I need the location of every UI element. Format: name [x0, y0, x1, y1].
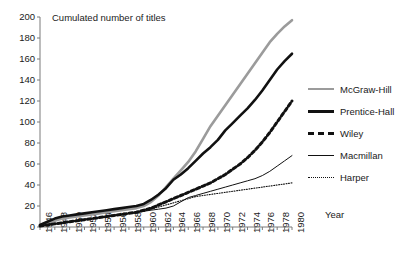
legend-item-harper[interactable]: Harper [308, 166, 416, 188]
legend-label: Wiley [340, 128, 363, 139]
series-line-wiley [40, 101, 292, 226]
legend-item-wiley[interactable]: Wiley [308, 122, 416, 144]
legend-label: Macmillan [340, 150, 383, 161]
legend-swatch-prentice-hall-icon [308, 105, 334, 117]
chart-axes [37, 17, 292, 230]
legend-swatch-macmillan-icon [308, 149, 334, 161]
legend-swatch-harper-icon [308, 171, 334, 183]
legend-label: Harper [340, 172, 369, 183]
legend-item-prentice-hall[interactable]: Prentice-Hall [308, 100, 416, 122]
chart-figure: Cumulated number of titles Year 20018016… [0, 0, 417, 265]
chart-legend: McGraw-Hill Prentice-Hall Wiley Macmilla… [308, 78, 416, 188]
legend-label: McGraw-Hill [340, 84, 392, 95]
chart-series-lines [40, 20, 292, 226]
legend-swatch-mcgraw-hill-icon [308, 83, 334, 95]
legend-swatch-wiley-icon [308, 127, 334, 139]
legend-item-macmillan[interactable]: Macmillan [308, 144, 416, 166]
series-line-prentice-hall [40, 54, 292, 225]
legend-item-mcgraw-hill[interactable]: McGraw-Hill [308, 78, 416, 100]
legend-label: Prentice-Hall [340, 106, 394, 117]
series-line-mcgraw-hill [40, 20, 292, 225]
